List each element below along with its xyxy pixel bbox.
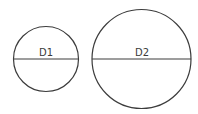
diameter-label-d2: D2 xyxy=(135,47,149,58)
circle-d2: D2 xyxy=(92,10,191,109)
circles-diagram: D1 D2 xyxy=(0,0,198,114)
diameter-label-d1: D1 xyxy=(39,47,53,58)
circle-d1: D1 xyxy=(14,27,79,92)
